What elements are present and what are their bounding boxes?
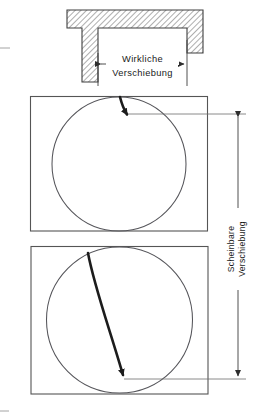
apparent-displacement-label-line1: Scheinbare (226, 226, 236, 272)
upper-core-panel (31, 97, 208, 232)
displacement-diagram-svg: Wirkliche Verschiebung Wirkliche (0, 0, 263, 420)
apparent-displacement-label-line2: Verschiebung (237, 221, 247, 277)
figure-root: Wirkliche Verschiebung Wirkliche (0, 0, 263, 420)
lower-panel-frame (31, 247, 208, 395)
true-displacement-label-line2: Verschiebung (112, 68, 173, 78)
upper-panel-frame (31, 97, 208, 232)
true-displacement-label-line1-front: Wirkliche (122, 54, 163, 64)
lower-core-panel (31, 247, 208, 395)
